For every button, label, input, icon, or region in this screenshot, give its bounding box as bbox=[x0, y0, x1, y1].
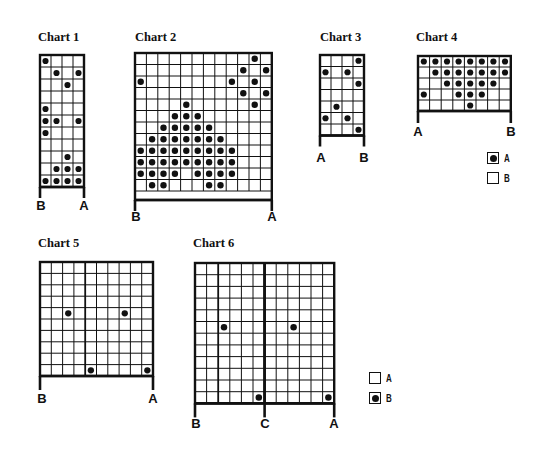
legend-item-a: A bbox=[369, 370, 393, 386]
dot-symbol-icon bbox=[369, 392, 381, 404]
chart-6-legend: A B bbox=[369, 370, 393, 410]
chart-6-label-left: B bbox=[191, 416, 200, 431]
stitch-dot-icon bbox=[290, 324, 296, 330]
stitch-dot-icon bbox=[325, 394, 331, 400]
legend-label-a: A bbox=[386, 373, 392, 384]
grid bbox=[195, 263, 334, 417]
chart-6-label-mid: C bbox=[260, 416, 269, 431]
empty-square-icon bbox=[369, 372, 381, 384]
chart-6-grid bbox=[0, 0, 545, 450]
chart-6-label-right: A bbox=[329, 416, 338, 431]
stitch-dot-icon bbox=[256, 394, 262, 400]
legend-label-b: B bbox=[386, 393, 392, 404]
stitch-dot-icon bbox=[221, 324, 227, 330]
legend-item-b: B bbox=[369, 390, 393, 406]
